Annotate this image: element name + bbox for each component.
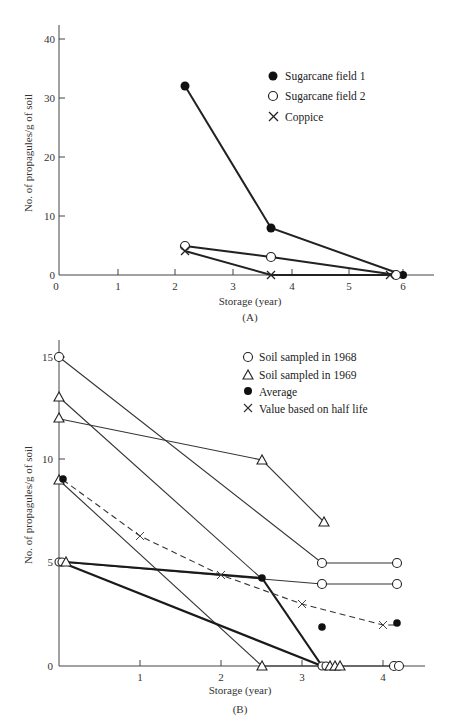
chart-b-y-tick-labels: 0 5 10 15 (42, 351, 54, 672)
marker-open-circle (393, 559, 402, 568)
y-tick-label: 5 (48, 556, 54, 568)
legend-triangle-icon (243, 370, 253, 379)
marker-filled-circle (318, 623, 326, 631)
x-tick-label: 1 (137, 671, 143, 683)
legend-cross-icon (269, 112, 278, 121)
chart-a-x-tick-labels: 0 1 2 3 4 5 6 (53, 280, 406, 292)
chart-a-x-axis-title: Storage (year) (219, 295, 282, 308)
x-tick-label: 2 (172, 280, 178, 292)
chart-a-caption: (A) (242, 311, 258, 324)
legend-open-circle-icon (269, 92, 278, 101)
legend-cross-icon (244, 404, 252, 412)
legend-label: Soil sampled in 1968 (259, 351, 357, 364)
marker-filled-circle (267, 224, 276, 233)
marker-cross (136, 532, 144, 540)
y-tick-label: 20 (44, 151, 56, 163)
legend-open-circle-icon (244, 353, 253, 362)
x-tick-label: 0 (53, 280, 59, 292)
chart-b-x-tick-labels: 1 2 3 4 (137, 671, 386, 683)
chart-b-axes (59, 340, 425, 666)
chart-a: 0 10 20 30 40 0 1 2 3 4 5 6 Storage (yea… (22, 25, 434, 324)
x-tick-label: 5 (346, 280, 352, 292)
legend-label: Value based on half life (259, 403, 368, 415)
legend-label: Soil sampled in 1969 (259, 369, 357, 382)
x-tick-label: 1 (115, 280, 121, 292)
marker-filled-circle (59, 475, 67, 483)
marker-open-circle (181, 242, 190, 251)
x-tick-label: 3 (299, 671, 305, 683)
legend-label: Coppice (285, 111, 323, 124)
y-tick-label: 10 (42, 453, 54, 465)
y-tick-label: 30 (44, 92, 56, 104)
marker-filled-circle (393, 619, 401, 627)
y-tick-label: 40 (44, 33, 56, 45)
chart-b-triangles (54, 392, 345, 670)
series-line-thick-5-to-0 (63, 563, 322, 666)
marker-open-circle (267, 253, 276, 262)
marker-open-triangle (54, 413, 64, 422)
series-line-1969-from-13 (60, 398, 262, 579)
marker-open-circle (318, 559, 327, 568)
legend-label: Sugarcane field 2 (285, 90, 366, 103)
marker-open-circle (393, 580, 402, 589)
legend-filled-circle-icon (244, 387, 252, 395)
marker-open-triangle (54, 392, 64, 401)
y-tick-label: 10 (44, 210, 56, 222)
series-line-1968-from-15 (59, 357, 397, 563)
chart-a-y-axis-title: No. of propagules/g of soil (22, 94, 34, 212)
legend-label: Average (259, 386, 297, 399)
marker-filled-circle (181, 82, 190, 91)
x-tick-label: 4 (289, 280, 295, 292)
x-tick-label: 6 (400, 280, 406, 292)
marker-open-circle (55, 353, 64, 362)
chart-b-legend: Soil sampled in 1968 Soil sampled in 196… (243, 351, 368, 415)
chart-a-legend: Sugarcane field 1 Sugarcane field 2 Copp… (269, 70, 366, 124)
marker-open-circle (395, 662, 404, 671)
x-tick-label: 2 (218, 671, 224, 683)
series-line-thick-average-to-0 (262, 578, 322, 666)
x-tick-label: 4 (380, 671, 386, 683)
chart-b: 0 5 10 15 1 2 3 4 Storage (year) No. of … (22, 340, 425, 716)
y-tick-label: 15 (42, 351, 54, 363)
chart-b-filled-circles (59, 475, 401, 631)
series-line-coppice (185, 251, 391, 275)
x-tick-label: 3 (230, 280, 236, 292)
chart-b-thick-lines (63, 562, 322, 666)
series-line-half-life (63, 480, 397, 625)
legend-label: Sugarcane field 1 (285, 70, 366, 83)
marker-open-circle (318, 580, 327, 589)
chart-b-x-axis-title: Storage (year) (209, 684, 272, 697)
legend-filled-circle-icon (269, 72, 278, 81)
chart-a-y-tick-labels: 0 10 20 30 40 (44, 33, 56, 281)
y-tick-label: 0 (48, 660, 54, 672)
marker-cross (379, 621, 387, 629)
figure-canvas: 0 10 20 30 40 0 1 2 3 4 5 6 Storage (yea… (0, 0, 450, 728)
chart-b-y-axis-title: No. of propagules/g of soil (22, 446, 34, 564)
marker-cross (298, 600, 306, 608)
marker-filled-circle (258, 574, 266, 582)
chart-b-caption: (B) (233, 703, 248, 716)
chart-a-axes (59, 25, 434, 275)
